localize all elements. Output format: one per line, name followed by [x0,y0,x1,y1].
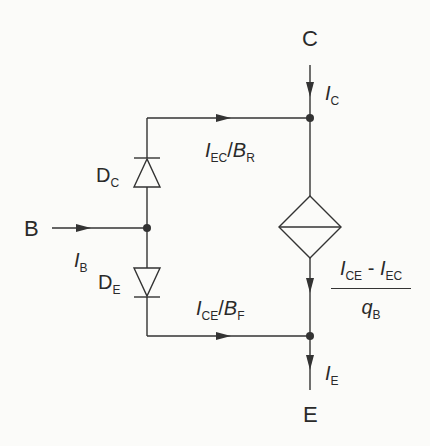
source-current-arrow-icon [306,278,314,293]
collector-terminal-label: C [302,28,318,50]
source-numerator: ICE - IEC [331,258,411,282]
dc-diode-icon [134,159,160,187]
de-diode-label: DE [98,272,120,296]
bjt-model-diagram: C B E IC IB IE DC DE IEC/BR ICE/BF ICE -… [0,0,430,446]
emitter-terminal-label: E [303,404,318,426]
fraction-bar [331,288,411,289]
dc-diode-label: DC [96,165,119,189]
collector-node [306,114,314,122]
base-node [143,224,151,232]
de-diode-icon [134,268,160,296]
emitter-current-arrow-icon [306,355,314,370]
emitter-node [306,332,314,340]
base-current-arrow-icon [76,224,91,232]
bottom-branch-arrow-icon [216,332,231,340]
top-branch-arrow-icon [216,114,231,122]
emitter-current-label: IE [325,363,339,387]
bottom-branch-current-label: ICE/BF [196,298,244,322]
source-current-expression: ICE - IEC qB [331,258,411,321]
top-branch-current-label: IEC/BR [205,140,255,164]
circuit-wires [0,0,430,446]
base-current-label: IB [74,250,88,274]
collector-current-label: IC [325,83,339,107]
source-denominator: qB [331,297,411,321]
collector-current-arrow-icon [306,82,314,97]
base-terminal-label: B [24,218,39,240]
